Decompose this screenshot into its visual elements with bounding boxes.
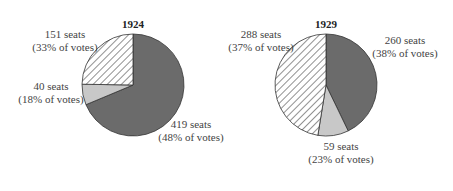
chart-title-1929: 1929 [306, 18, 346, 30]
label-1929-hatched: 288 seats (37% of votes) [226, 28, 296, 54]
label-1929-gray: 59 seats (23% of votes) [306, 140, 376, 166]
pie-charts-figure: 1924 151 seats (33% of votes) 40 seats (… [0, 0, 453, 191]
label-1924-gray: 40 seats (18% of votes) [16, 80, 86, 106]
label-1924-dark: 419 seats (48% of votes) [155, 118, 227, 144]
chart-title-1924: 1924 [113, 18, 153, 30]
label-1924-hatched: 151 seats (33% of votes) [30, 28, 100, 54]
label-1929-dark: 260 seats (38% of votes) [369, 34, 441, 60]
